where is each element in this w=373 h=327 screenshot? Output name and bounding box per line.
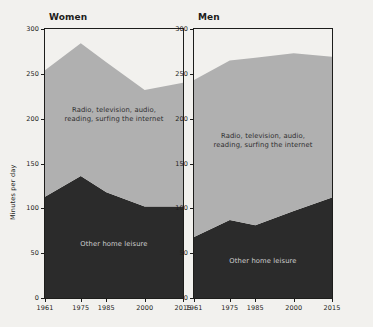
x-tick-label: 2000: [282, 304, 306, 312]
y-tick-label: 300: [19, 25, 39, 33]
plot-area-women: [45, 29, 183, 298]
y-tick-label: 250: [168, 70, 188, 78]
panel-women-title: Women: [49, 12, 87, 22]
x-tick-mark: [294, 299, 295, 302]
y-tick-label: 150: [19, 160, 39, 168]
x-tick-label: 2015: [320, 304, 344, 312]
y-tick-mark: [190, 164, 194, 165]
x-tick-mark: [194, 299, 195, 302]
chart-root: Minutes per day Women Men 05010015020025…: [0, 0, 373, 327]
x-tick-label: 1985: [94, 304, 118, 312]
y-tick-mark: [41, 253, 45, 254]
y-tick-mark: [190, 74, 194, 75]
y-tick-label: 200: [168, 115, 188, 123]
series-label-media: Radio, television, audio,reading, surfin…: [188, 132, 338, 150]
x-tick-mark: [106, 299, 107, 302]
y-tick-mark: [190, 208, 194, 209]
series-label-media: Radio, television, audio,reading, surfin…: [39, 106, 189, 124]
x-tick-mark: [145, 299, 146, 302]
x-tick-label: 1975: [218, 304, 242, 312]
x-tick-mark: [255, 299, 256, 302]
x-tick-label: 1961: [33, 304, 57, 312]
x-tick-mark: [230, 299, 231, 302]
y-tick-label: 150: [168, 160, 188, 168]
y-tick-mark: [190, 29, 194, 30]
y-tick-mark: [41, 74, 45, 75]
y-tick-label: 0: [168, 294, 188, 302]
y-tick-mark: [41, 164, 45, 165]
area-series-1: [45, 43, 183, 206]
y-tick-label: 100: [19, 204, 39, 212]
y-tick-label: 50: [19, 249, 39, 257]
x-tick-label: 2000: [133, 304, 157, 312]
panel-men-title: Men: [198, 12, 220, 22]
x-tick-label: 1975: [69, 304, 93, 312]
y-tick-label: 50: [168, 249, 188, 257]
y-tick-mark: [41, 208, 45, 209]
y-tick-label: 300: [168, 25, 188, 33]
y-tick-mark: [190, 253, 194, 254]
x-tick-mark: [45, 299, 46, 302]
y-tick-label: 200: [19, 115, 39, 123]
series-label-other-home-leisure: Other home leisure: [45, 240, 183, 249]
y-tick-label: 250: [19, 70, 39, 78]
x-tick-label: 1961: [182, 304, 206, 312]
y-axis-title: Minutes per day: [9, 165, 17, 220]
y-tick-mark: [41, 29, 45, 30]
x-tick-mark: [332, 299, 333, 302]
y-tick-mark: [190, 119, 194, 120]
x-tick-label: 1985: [243, 304, 267, 312]
series-label-other-home-leisure: Other home leisure: [194, 257, 332, 266]
x-tick-mark: [81, 299, 82, 302]
y-tick-label: 0: [19, 294, 39, 302]
y-tick-label: 100: [168, 204, 188, 212]
